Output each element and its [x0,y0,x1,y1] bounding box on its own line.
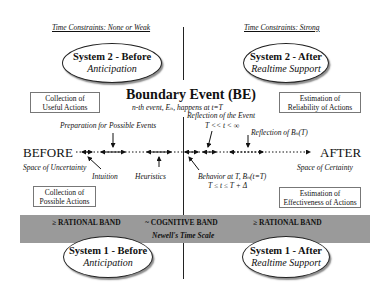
band-label-cognitive: ~ COGNITIVE BAND [145,218,218,227]
system1-after-ellipse: System 1 - After Realtime Support [242,236,330,278]
band-label-rational-right: ≥ RATIONAL BAND [253,218,322,227]
system1-after-title: System 1 - After [250,245,322,257]
band-label-rational-left: ≥ RATIONAL BAND [52,218,121,227]
system1-before-subtitle: Anticipation [83,257,132,269]
diagram-canvas: Time Constraints: None or Weak Time Cons… [0,0,386,293]
system1-before-title: System 1 - Before [69,245,147,257]
band-caption: Newell's Time Scale [152,231,214,240]
system1-before-ellipse: System 1 - Before Anticipation [63,236,153,278]
system1-after-subtitle: Realtime Support [251,257,321,269]
timeline-arrows [0,0,386,293]
